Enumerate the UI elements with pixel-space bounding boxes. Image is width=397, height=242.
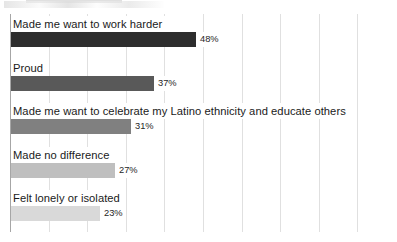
bar-value-label: 37% — [154, 76, 180, 91]
bar — [11, 163, 115, 178]
bar-value-label: 31% — [131, 119, 157, 134]
bar-row: Made no difference27% — [11, 147, 396, 191]
bar-row: Felt lonely or isolated23% — [11, 190, 396, 234]
bar-value-label: 48% — [196, 32, 222, 47]
bar-category-label: Made no difference — [13, 147, 112, 163]
artifact-smudge-lower — [4, 1, 164, 8]
plot-area: Made me want to work harder48%Proud37%Ma… — [10, 14, 396, 232]
bar — [11, 32, 196, 47]
bar-category-label: Made me want to celebrate my Latino ethn… — [13, 103, 349, 119]
bar-row: Made me want to work harder48% — [11, 16, 396, 60]
bar — [11, 119, 131, 134]
bar-value-label: 23% — [100, 206, 126, 221]
bar-row: Proud37% — [11, 60, 396, 104]
bar — [11, 76, 154, 91]
bar — [11, 206, 100, 221]
bar-category-label: Felt lonely or isolated — [13, 190, 123, 206]
bar-category-label: Made me want to work harder — [13, 16, 165, 32]
bar-category-label: Proud — [13, 60, 46, 76]
bar-value-label: 27% — [115, 163, 141, 178]
bar-chart: Made me want to work harder48%Proud37%Ma… — [0, 0, 397, 242]
cropped-top-artifact — [0, 0, 397, 11]
bar-row: Made me want to celebrate my Latino ethn… — [11, 103, 396, 147]
